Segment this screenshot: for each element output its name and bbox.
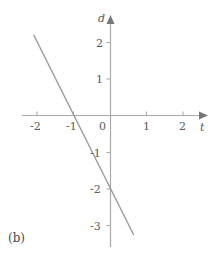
figure-panel-b: -2 -1 0 1 2 2 1 -1 -2 -3 d t (b) (0, 0, 214, 261)
line-series-d-equals-minus-2t-minus-2 (34, 35, 134, 234)
y-tick-label--2: -2 (90, 184, 101, 195)
x-axis (22, 112, 208, 120)
series-line-segment (34, 35, 134, 234)
x-tick-label--2: -2 (30, 121, 41, 132)
x-axis-arrow-icon (199, 112, 208, 120)
x-tick-label-2: 2 (179, 121, 186, 132)
x-axis-label: t (200, 122, 204, 133)
y-tick-label-2: 2 (96, 38, 103, 49)
x-tick-label--1: -1 (66, 121, 77, 132)
y-axis (107, 15, 115, 247)
y-axis-label: d (98, 13, 105, 24)
y-tick-label-1: 1 (96, 74, 103, 85)
y-tick-label--3: -3 (90, 221, 101, 232)
x-tick-label-1: 1 (143, 121, 150, 132)
y-tick-label--1: -1 (90, 148, 101, 159)
panel-label: (b) (8, 232, 25, 244)
y-axis-arrow-icon (107, 15, 115, 24)
x-tick-label-0: 0 (99, 121, 106, 132)
